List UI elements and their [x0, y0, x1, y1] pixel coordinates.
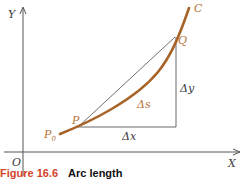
- point-label-q: Q: [178, 35, 187, 46]
- point-label-p: P: [72, 115, 79, 126]
- y-axis-label: Y: [8, 9, 15, 20]
- arc-length-diagram: [0, 0, 245, 179]
- caption-number: Figure 16.6: [0, 167, 58, 179]
- delta-s-label: Δs: [137, 99, 151, 110]
- chord-pq: [78, 37, 175, 127]
- caption-title: Arc length: [68, 167, 122, 179]
- point-label-p0: P0: [44, 129, 56, 143]
- figure-caption: Figure 16.6Arc length: [0, 168, 122, 179]
- curve-label-c: C: [194, 3, 202, 14]
- x-axis-label: X: [228, 158, 236, 169]
- delta-x-label: Δx: [122, 131, 136, 142]
- delta-y-label: Δy: [180, 83, 194, 94]
